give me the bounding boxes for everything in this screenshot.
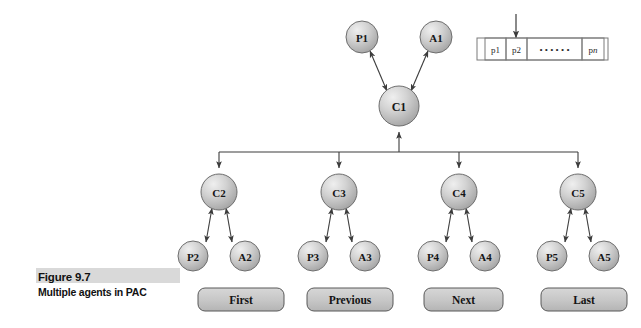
- button-last[interactable]: Last: [541, 288, 627, 311]
- button-previous[interactable]: Previous: [307, 288, 393, 311]
- connector-c3-a3: [346, 208, 352, 242]
- array-cell-p1-label: p1: [491, 45, 500, 55]
- button-first[interactable]: First: [198, 288, 284, 311]
- figure-caption: Figure 9.7 Multiple agents in PAC: [36, 268, 186, 298]
- connector-c5-p5: [565, 208, 571, 242]
- connector-a1-c1: [411, 51, 428, 91]
- root-agent-connectors: [370, 51, 428, 91]
- connector-c4-a4: [466, 208, 472, 242]
- connector-c3-p3: [326, 208, 332, 242]
- node-a3[interactable]: A3: [350, 241, 380, 271]
- node-a1[interactable]: A1: [420, 21, 452, 53]
- figure-number: Figure 9.7: [38, 271, 90, 283]
- node-p2[interactable]: P2: [178, 241, 208, 271]
- connector-c5-a5: [585, 208, 591, 242]
- connector-c2-p2: [206, 208, 212, 242]
- node-c3[interactable]: C3: [321, 174, 357, 210]
- array-cell-pn-index: n: [593, 45, 598, 55]
- node-c2[interactable]: C2: [201, 174, 237, 210]
- node-c5[interactable]: C5: [560, 174, 596, 210]
- node-a4[interactable]: A4: [470, 241, 500, 271]
- node-p5[interactable]: P5: [537, 241, 567, 271]
- array-cell-pn-label: pn: [589, 45, 599, 55]
- array-cell-ellipsis-label: • • • • • •: [539, 45, 569, 55]
- array-widget: p1 p2 • • • • • • pn: [477, 14, 608, 60]
- figure-number-banner: Figure 9.7: [36, 268, 180, 283]
- connector-p1-c1: [370, 51, 387, 91]
- node-p1[interactable]: P1: [346, 21, 378, 53]
- node-a5[interactable]: A5: [589, 241, 619, 271]
- figure-title: Multiple agents in PAC: [36, 286, 186, 298]
- array-cell-p2-label: p2: [512, 45, 521, 55]
- leaf-connectors: [206, 208, 591, 242]
- controller-bus: [219, 132, 578, 168]
- node-a2[interactable]: A2: [230, 241, 260, 271]
- node-c1[interactable]: C1: [379, 86, 419, 126]
- node-c4[interactable]: C4: [441, 174, 477, 210]
- button-next[interactable]: Next: [424, 288, 503, 311]
- node-p3[interactable]: P3: [298, 241, 328, 271]
- figure-root: P1 A1 C1 C2 C3 C4 C5: [0, 0, 641, 328]
- connector-c2-a2: [226, 208, 232, 242]
- connector-c4-p4: [446, 208, 452, 242]
- node-p4[interactable]: P4: [418, 241, 448, 271]
